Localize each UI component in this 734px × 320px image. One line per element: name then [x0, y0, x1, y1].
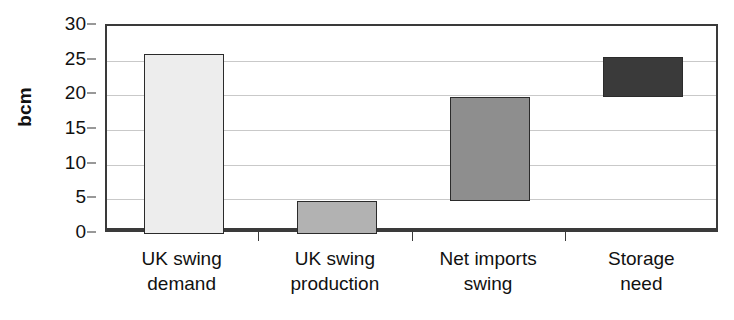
y-tick-mark-30 [87, 24, 96, 25]
y-tick-label-25: 25 [65, 48, 86, 70]
y-tick-mark-25 [87, 58, 96, 59]
x-axis-category-labels: UK swingdemandUK swingproductionNet impo… [105, 246, 718, 314]
y-tick-label-15: 15 [65, 117, 86, 139]
x-label-uk-swing-demand: UK swingdemand [105, 246, 258, 296]
x-label-net-imports-swing: Net importsswing [412, 246, 565, 296]
x-label-line-1: UK swing [105, 246, 258, 271]
x-label-line-2: need [565, 271, 718, 296]
bar-storage-need [603, 57, 683, 97]
y-tick-label-30: 30 [65, 13, 86, 35]
x-label-storage-need: Storageneed [565, 246, 718, 296]
x-label-line-1: Storage [565, 246, 718, 271]
bar-uk-swing-production [297, 201, 377, 234]
y-tick-label-20: 20 [65, 82, 86, 104]
y-tick-mark-0 [87, 232, 96, 233]
y-tick-mark-10 [87, 162, 96, 163]
y-tick-mark-20 [87, 93, 96, 94]
y-axis-tick-labels: 302520151050 [52, 24, 96, 232]
y-tick-label-0: 0 [75, 221, 86, 243]
x-label-line-2: demand [105, 271, 258, 296]
y-tick-label-5: 5 [75, 186, 86, 208]
x-tick-mark-2 [412, 232, 413, 241]
x-label-line-2: production [258, 271, 411, 296]
y-tick-mark-5 [87, 197, 96, 198]
y-tick-label-10: 10 [65, 152, 86, 174]
x-label-line-1: UK swing [258, 246, 411, 271]
x-label-line-2: swing [412, 271, 565, 296]
x-tick-mark-3 [565, 232, 566, 241]
x-label-uk-swing-production: UK swingproduction [258, 246, 411, 296]
bar-net-imports-swing [450, 97, 530, 201]
x-tick-mark-1 [258, 232, 259, 241]
bar-uk-swing-demand [144, 54, 224, 234]
y-axis-title: bcm [14, 84, 36, 130]
bar-chart: bcm 302520151050 UK swingdemandUK swingp… [0, 0, 734, 320]
x-label-line-1: Net imports [412, 246, 565, 271]
y-tick-mark-15 [87, 128, 96, 129]
plot-area [105, 24, 718, 232]
